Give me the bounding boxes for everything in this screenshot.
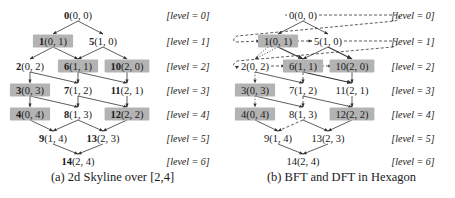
node-14: 14(2, 4) xyxy=(286,156,320,168)
node-label: 3(0, 3) xyxy=(241,85,269,97)
node-label: 11(2, 1) xyxy=(111,85,144,97)
node-8: 8(1, 3) xyxy=(64,109,92,121)
node-4: 4(0, 4) xyxy=(235,108,275,121)
node-12: 12(2, 2) xyxy=(105,108,150,121)
node-5: 5(1, 0) xyxy=(314,36,342,48)
edge-0-5 xyxy=(303,21,328,34)
node-label: 12(2, 2) xyxy=(110,109,144,121)
edge-8-13 xyxy=(303,120,328,131)
caption-panel-b: (b) BFT and DFT in Hexagon xyxy=(228,170,455,185)
node-11: 11(2, 1) xyxy=(111,85,144,97)
node-1: 1(0, 1) xyxy=(33,35,73,48)
edge-2-7 xyxy=(30,72,78,83)
node-label: 6(1, 1) xyxy=(289,61,317,73)
edge-3-8 xyxy=(30,96,78,107)
edge-0-1 xyxy=(53,21,78,34)
level-label-6: [level = 6] xyxy=(166,156,210,167)
dft-path-segment xyxy=(255,47,268,58)
node-label: 4(0, 4) xyxy=(16,109,44,121)
edge-6-11 xyxy=(303,72,352,83)
level-label-2: [level = 2] xyxy=(391,61,435,72)
node-label: 9(1, 4) xyxy=(264,133,292,145)
edge-1-2 xyxy=(30,47,53,59)
edge-5-6 xyxy=(303,47,328,59)
edge-2-7 xyxy=(255,72,303,83)
node-14: 14(2, 4) xyxy=(61,156,95,168)
edge-3-8 xyxy=(255,96,303,107)
node-label: 1(0, 1) xyxy=(264,36,292,48)
level-label-3: [level = 3] xyxy=(166,85,210,96)
node-label: 5(1, 0) xyxy=(314,36,342,48)
figure-canvas: 0(0, 0)1(0, 1)5(1, 0)2(0, 2)6(1, 1)10(2,… xyxy=(0,0,455,198)
level-label-6: [level = 6] xyxy=(391,156,435,167)
level-label-1: [level = 1] xyxy=(166,36,210,47)
node-label: 4(0, 4) xyxy=(241,109,269,121)
node-7: 7(1, 2) xyxy=(289,85,317,97)
node-label: 14(2, 4) xyxy=(286,156,320,168)
edge-12-13 xyxy=(328,120,352,131)
node-0: 0(0, 0) xyxy=(289,10,317,22)
node-2: 2(0, 2) xyxy=(241,61,269,73)
level-label-3: [level = 3] xyxy=(391,85,435,96)
node-label: 13(2, 3) xyxy=(86,133,120,145)
node-label: 8(1, 3) xyxy=(64,109,92,121)
node-9: 9(1, 4) xyxy=(264,133,292,145)
level-label-0: [level = 0] xyxy=(166,10,210,21)
node-label: 2(0, 2) xyxy=(16,61,44,73)
edge-4-9 xyxy=(30,120,53,131)
node-label: 7(1, 2) xyxy=(289,85,317,97)
node-4: 4(0, 4) xyxy=(10,108,50,121)
edge-5-10 xyxy=(103,47,127,59)
edge-6-11 xyxy=(78,72,127,83)
edge-8-13 xyxy=(78,120,103,131)
node-7: 7(1, 2) xyxy=(64,85,92,97)
edge-9-14 xyxy=(53,144,78,154)
level-label-0: [level = 0] xyxy=(391,10,435,21)
panel-b-bft-dft-hexagon: 0(0, 0)1(0, 1)5(1, 0)2(0, 2)6(1, 1)10(2,… xyxy=(234,10,435,168)
edge-4-9 xyxy=(255,120,278,131)
node-label: 2(0, 2) xyxy=(241,61,269,73)
node-label: 0(0, 0) xyxy=(64,10,92,22)
node-8: 8(1, 3) xyxy=(289,109,317,121)
panel-a-skyline-lattice: 0(0, 0)1(0, 1)5(1, 0)2(0, 2)6(1, 1)10(2,… xyxy=(10,10,210,168)
edge-13-14 xyxy=(78,144,103,154)
level-label-5: [level = 5] xyxy=(391,133,435,144)
level-label-2: [level = 2] xyxy=(166,61,210,72)
node-10: 10(2, 0) xyxy=(105,60,150,73)
edge-0-5 xyxy=(78,21,103,34)
node-label: 6(1, 1) xyxy=(64,61,92,73)
level-label-4: [level = 4] xyxy=(166,109,210,120)
node-11: 11(2, 1) xyxy=(336,85,369,97)
edge-8-9 xyxy=(278,120,303,131)
level-label-5: [level = 5] xyxy=(166,133,210,144)
edge-1-6 xyxy=(53,47,78,59)
edge-7-12 xyxy=(303,96,352,107)
node-3: 3(0, 3) xyxy=(235,84,275,97)
edge-7-12 xyxy=(78,96,127,107)
level-label-1: [level = 1] xyxy=(391,36,435,47)
node-label: 5(1, 0) xyxy=(89,36,117,48)
node-label: 3(0, 3) xyxy=(16,85,44,97)
edge-5-10 xyxy=(328,47,352,59)
node-label: 8(1, 3) xyxy=(289,109,317,121)
node-3: 3(0, 3) xyxy=(10,84,50,97)
edge-5-6 xyxy=(78,47,103,59)
node-10: 10(2, 0) xyxy=(330,60,375,73)
edge-9-14 xyxy=(278,144,303,154)
node-label: 9(1, 4) xyxy=(39,133,67,145)
node-label: 10(2, 0) xyxy=(110,61,144,73)
node-label: 0(0, 0) xyxy=(289,10,317,22)
node-label: 13(2, 3) xyxy=(311,133,345,145)
node-6: 6(1, 1) xyxy=(283,60,323,73)
node-5: 5(1, 0) xyxy=(89,36,117,48)
node-2: 2(0, 2) xyxy=(16,61,44,73)
edge-1-2 xyxy=(255,47,278,59)
edge-8-9 xyxy=(53,120,78,131)
node-label: 14(2, 4) xyxy=(61,156,95,168)
node-13: 13(2, 3) xyxy=(86,133,120,145)
node-label: 10(2, 0) xyxy=(335,61,369,73)
node-1: 1(0, 1) xyxy=(258,35,298,48)
node-0: 0(0, 0) xyxy=(64,10,92,22)
edge-13-14 xyxy=(303,144,328,154)
level-label-4: [level = 4] xyxy=(391,109,435,120)
